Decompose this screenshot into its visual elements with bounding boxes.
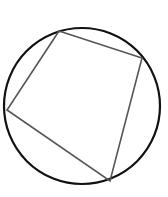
diagram-canvas — [0, 0, 168, 197]
inscribed-quadrilateral-diagram — [0, 0, 168, 197]
circumscribed-circle — [4, 28, 160, 184]
inscribed-quadrilateral — [7, 31, 142, 181]
